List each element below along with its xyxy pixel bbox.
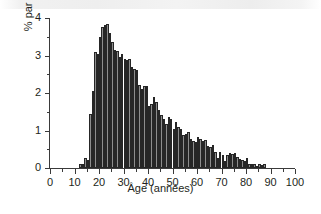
x-tick-major	[197, 169, 198, 174]
y-tick-label: 0	[21, 162, 41, 173]
x-axis-title: Âge (années)	[0, 182, 321, 194]
x-tick-minor	[87, 169, 88, 172]
x-tick-minor	[62, 169, 63, 172]
x-tick-major	[271, 169, 272, 174]
x-tick-major	[173, 169, 174, 174]
y-tick-label: 2	[21, 87, 41, 98]
x-tick-minor	[111, 169, 112, 172]
x-tick-major	[50, 169, 51, 174]
y-tick-major	[45, 56, 50, 57]
x-tick-major	[295, 169, 296, 174]
x-tick-major	[222, 169, 223, 174]
x-tick-minor	[234, 169, 235, 172]
x-tick-major	[148, 169, 149, 174]
x-tick-minor	[209, 169, 210, 172]
x-tick-minor	[283, 169, 284, 172]
x-tick-minor	[258, 169, 259, 172]
plot-area: 01234 0102030405060708090100 % par année	[50, 18, 295, 168]
x-tick-major	[99, 169, 100, 174]
x-tick-minor	[160, 169, 161, 172]
y-tick-major	[45, 168, 50, 169]
y-axis-title: % par année	[22, 0, 34, 60]
y-tick-major	[45, 93, 50, 94]
histogram-bars	[50, 18, 295, 168]
x-tick-minor	[136, 169, 137, 172]
y-tick-label: 1	[21, 125, 41, 136]
x-tick-major	[246, 169, 247, 174]
histogram-bar	[263, 164, 265, 168]
x-tick-minor	[185, 169, 186, 172]
y-tick-major	[45, 18, 50, 19]
x-tick-major	[75, 169, 76, 174]
y-tick-major	[45, 131, 50, 132]
histogram-figure: 01234 0102030405060708090100 % par année…	[0, 0, 321, 214]
x-tick-major	[124, 169, 125, 174]
